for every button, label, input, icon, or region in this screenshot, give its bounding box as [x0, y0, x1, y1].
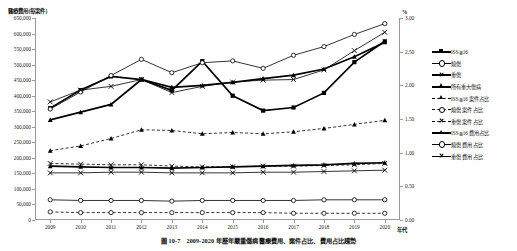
series-line — [50, 163, 385, 168]
series-line — [50, 120, 385, 150]
series-重傷-費用占比 — [48, 168, 387, 175]
x-tick-label: 2010 — [68, 224, 94, 230]
x-marker-icon — [439, 118, 444, 123]
legend-swatch — [432, 139, 451, 150]
data-point — [322, 198, 326, 202]
y-tick-label-right: 1.00 — [405, 150, 429, 156]
data-point — [109, 198, 113, 202]
x-tick-label: 2016 — [250, 224, 276, 230]
y-tick-right — [400, 52, 403, 53]
legend-item[interactable]: 燒傷 — [432, 58, 517, 70]
legend-marker — [439, 153, 444, 158]
data-point — [291, 198, 295, 202]
legend-swatch — [432, 93, 451, 104]
x-tick — [50, 220, 51, 223]
x-axis-title: 年代 — [397, 226, 407, 234]
legend-item[interactable]: ISS≧16 — [432, 46, 517, 58]
data-point — [322, 211, 326, 215]
data-point — [109, 73, 113, 77]
legend-swatch — [432, 127, 451, 138]
data-point — [170, 210, 174, 214]
series-line — [50, 24, 385, 109]
legend-item[interactable]: ISS≧16 費用占比 — [432, 127, 517, 139]
legend-swatch — [432, 151, 451, 162]
triangle-marker-icon — [439, 83, 443, 87]
x-tick-label: 2014 — [189, 224, 215, 230]
y-axis-left-title: 醫療費用(每案件) — [8, 7, 48, 15]
data-point — [139, 57, 143, 61]
legend-label: ISS≧16 費用占比 — [451, 129, 490, 136]
x-tick — [81, 220, 82, 223]
data-point — [109, 210, 113, 214]
data-point — [231, 198, 235, 202]
data-point — [291, 53, 295, 57]
x-tick-label: 2018 — [311, 224, 337, 230]
figure-caption: 圖 10-7 2009-2020 年歷年嚴重傷病醫療費用、案件占比、費用占比趨勢 — [0, 236, 517, 245]
chart-legend: ISS≧16燒傷重傷所有重大傷病ISS≧16 案件占比燒傷 案件占比重傷 案件占… — [432, 46, 517, 162]
legend-marker — [439, 118, 444, 123]
legend-item[interactable]: 所有重大傷病 — [432, 81, 517, 93]
data-point — [231, 59, 235, 63]
data-point — [382, 30, 387, 35]
series-ISS-16-案件占比 — [48, 118, 387, 153]
legend-swatch — [432, 104, 451, 115]
data-point — [261, 210, 265, 214]
legend-marker — [439, 83, 443, 87]
y-tick-label-left: 350,000 — [0, 108, 31, 114]
y-tick-right — [400, 220, 403, 221]
data-point — [352, 198, 356, 202]
data-point — [48, 107, 52, 111]
data-point — [352, 32, 356, 36]
data-point — [352, 211, 356, 215]
legend-item[interactable]: 燒傷 案件占比 — [432, 104, 517, 116]
x-tick — [385, 220, 386, 223]
x-tick — [263, 220, 264, 223]
y-tick-label-left: 300,000 — [0, 124, 31, 130]
legend-item[interactable]: 燒傷 費用占比 — [432, 139, 517, 151]
legend-label: 燒傷 費用占比 — [451, 141, 483, 148]
legend-item[interactable]: 重傷 費用占比 — [432, 150, 517, 162]
data-point — [382, 118, 387, 123]
triangle-marker-icon — [439, 95, 443, 99]
legend-marker — [439, 107, 445, 113]
legend-label: 重傷 案件占比 — [451, 118, 483, 125]
legend-swatch — [432, 81, 451, 92]
y-tick-right — [400, 186, 403, 187]
y-tick-label-right: 2.50 — [405, 49, 429, 55]
legend-label: 重傷 費用占比 — [451, 153, 483, 160]
legend-item[interactable]: 重傷 — [432, 69, 517, 81]
legend-marker — [439, 60, 445, 66]
series-line — [50, 170, 385, 173]
y-tick-right — [400, 153, 403, 154]
data-point — [200, 210, 204, 214]
y-tick-label-left: 400,000 — [0, 93, 31, 99]
legend-marker — [439, 130, 443, 134]
circle-open-marker-icon — [439, 141, 445, 147]
data-point — [48, 100, 53, 105]
x-tick-label: 2011 — [98, 224, 124, 230]
x-tick — [354, 220, 355, 223]
data-point — [322, 91, 326, 95]
series-燒傷-案件占比 — [48, 210, 387, 216]
triangle-marker-icon — [439, 130, 443, 134]
series-重傷 — [48, 30, 387, 104]
legend-item[interactable]: 重傷 案件占比 — [432, 116, 517, 128]
y-tick-label-right: 0.00 — [405, 217, 429, 223]
data-point — [79, 210, 83, 214]
series-lines — [35, 18, 400, 220]
y-tick-label-left: 200,000 — [0, 155, 31, 161]
data-point — [200, 61, 204, 65]
x-tick — [202, 220, 203, 223]
data-point — [48, 210, 52, 214]
data-point — [48, 198, 52, 202]
legend-label: 重傷 — [451, 71, 461, 78]
circle-open-marker-icon — [439, 60, 445, 66]
data-point — [139, 210, 143, 214]
x-tick-label: 2017 — [281, 224, 307, 230]
y-tick-label-left: 250,000 — [0, 139, 31, 145]
y-tick-label-left: 450,000 — [0, 77, 31, 83]
legend-item[interactable]: ISS≧16 案件占比 — [432, 92, 517, 104]
y-tick-label-left: 150,000 — [0, 170, 31, 176]
data-point — [383, 21, 387, 25]
series-ISS-16 — [48, 39, 387, 113]
